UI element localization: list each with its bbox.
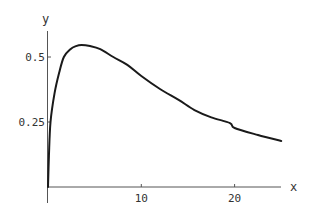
y-tick-label: 0.5 [25, 51, 45, 64]
y-tick-label: 0.25 [19, 116, 46, 129]
axes: 1020 0.250.5 x y [19, 12, 298, 205]
x-tick-label: 10 [135, 192, 148, 205]
x-tick-label: 20 [228, 192, 241, 205]
x-axis-label: x [290, 180, 297, 194]
y-axis-label: y [42, 12, 49, 26]
y-ticks: 0.250.5 [19, 51, 52, 129]
chart: 1020 0.250.5 x y [0, 0, 314, 212]
data-curve [48, 45, 281, 187]
